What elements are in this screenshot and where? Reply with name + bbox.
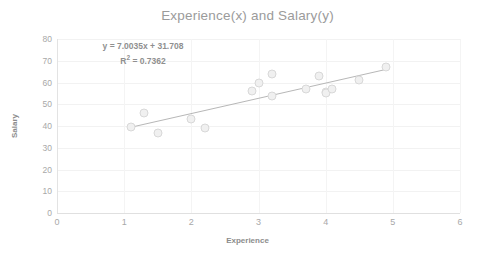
data-point: [153, 128, 162, 137]
scatter-chart: Experience(x) and Salary(y) 010203040506…: [0, 0, 495, 263]
data-point: [126, 123, 135, 132]
data-point: [267, 69, 276, 78]
data-point: [200, 123, 209, 132]
data-point: [140, 108, 149, 117]
data-point: [301, 85, 310, 94]
data-point: [247, 87, 256, 96]
trendline: [0, 0, 495, 263]
data-point: [187, 115, 196, 124]
data-point: [328, 85, 337, 94]
data-point: [267, 91, 276, 100]
data-point: [382, 63, 391, 72]
data-point: [355, 76, 364, 85]
data-point: [254, 78, 263, 87]
data-point: [314, 71, 323, 80]
